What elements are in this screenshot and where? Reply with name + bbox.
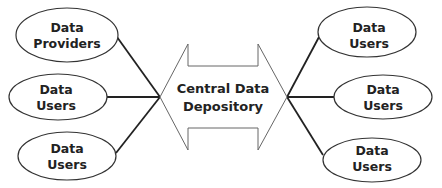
label-line: Users — [12, 157, 122, 173]
label-line: Data — [317, 143, 427, 159]
label-line: Providers — [12, 36, 122, 52]
central-depository-label: Central Data Depository — [163, 80, 283, 116]
label-line: Data — [314, 20, 424, 36]
node-left-3-label: Data Users — [12, 141, 122, 173]
label-line: Users — [328, 98, 438, 114]
connector-left-3 — [116, 97, 160, 153]
label-line: Data — [12, 141, 122, 157]
node-right-2-label: Data Users — [328, 82, 438, 114]
node-right-1-label: Data Users — [314, 20, 424, 52]
label-line: Users — [317, 159, 427, 175]
node-left-1-label: Data Providers — [12, 20, 122, 52]
label-line: Data — [328, 82, 438, 98]
connector-left-1 — [117, 37, 160, 97]
node-left-2-label: Data Users — [1, 82, 111, 114]
label-line: Depository — [163, 98, 283, 116]
node-right-3-label: Data Users — [317, 143, 427, 175]
label-line: Data — [1, 82, 111, 98]
label-line: Users — [314, 36, 424, 52]
label-line: Users — [1, 98, 111, 114]
label-line: Central Data — [163, 80, 283, 98]
label-line: Data — [12, 20, 122, 36]
